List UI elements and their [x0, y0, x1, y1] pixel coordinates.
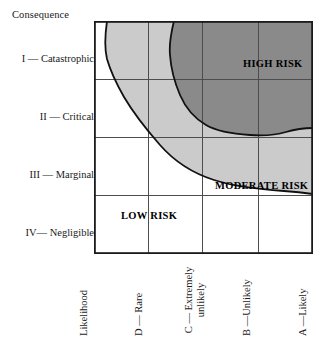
consequence-axis-title: Consequence	[12, 9, 69, 21]
consequence-tick-negligible: IV— Negligible	[25, 227, 94, 239]
risk-matrix-figure: Consequence I — Catastrophic II — Critic…	[0, 0, 331, 342]
likelihood-axis-title: Likelihood	[78, 290, 90, 336]
consequence-tick-critical: II — Critical	[40, 111, 94, 123]
consequence-tick-marginal: III — Marginal	[29, 169, 94, 181]
likelihood-tick-c-line1: C — Extremely	[183, 267, 194, 334]
likelihood-tick-c-line2: unlikely	[195, 283, 206, 317]
consequence-tick-catastrophic: I — Catastrophic	[22, 53, 94, 65]
likelihood-tick-a-likely: A —Likely	[297, 288, 309, 336]
likelihood-tick-c-extremely-unlikely: C — Extremelyunlikely	[183, 264, 207, 336]
likelihood-tick-d-rare: D — Rare	[133, 293, 145, 336]
risk-matrix-plot-area: HIGH RISK MODERATE RISK LOW RISK	[94, 21, 313, 254]
likelihood-tick-b-unlikely: B —Unlikely	[241, 279, 253, 336]
risk-matrix-svg	[94, 21, 313, 254]
